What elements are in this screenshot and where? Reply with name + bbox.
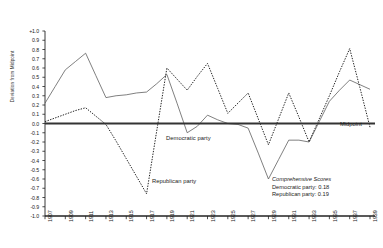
comprehensive-scores-annotation: Comprehensive Scores Democratic party: 0…	[272, 176, 331, 199]
y-tick-label: -0.7	[17, 185, 39, 191]
republican-series-label: Republican party	[152, 178, 196, 184]
y-tick-label: 0.9	[17, 37, 39, 43]
x-tick-label: 1907	[47, 210, 53, 222]
y-tick-label: 0.5	[17, 74, 39, 80]
y-tick-label: -0.1	[17, 130, 39, 136]
y-tick-label: -1.0	[17, 213, 39, 219]
series-line-democratic-party	[45, 53, 370, 179]
x-tick-label: 1913	[108, 210, 114, 222]
x-tick-label: 1939	[372, 210, 378, 222]
x-tick-label: 1915	[128, 210, 134, 222]
x-tick-label: 1921	[189, 210, 195, 222]
x-tick-label: 1925	[230, 210, 236, 222]
x-tick-label: 1931	[291, 210, 297, 222]
y-tick-label: -0.5	[17, 167, 39, 173]
y-tick-label: 0.3	[17, 93, 39, 99]
y-tick-label: -0.8	[17, 195, 39, 201]
y-tick-label: 0.2	[17, 102, 39, 108]
x-tick-label: 1923	[210, 210, 216, 222]
x-tick-label: 1937	[352, 210, 358, 222]
x-tick-label: 1929	[271, 210, 277, 222]
y-tick-label: -0.3	[17, 148, 39, 154]
midpoint-label: Midpoint	[340, 121, 362, 127]
y-tick-label: -0.9	[17, 204, 39, 210]
x-tick-label: 1911	[88, 211, 94, 222]
x-tick-label: 1933	[311, 210, 317, 222]
y-tick-label: 0.1	[17, 111, 39, 117]
y-tick-label: -0.2	[17, 139, 39, 145]
y-tick-label: +1.0	[17, 28, 39, 34]
x-tick-label: 1935	[332, 210, 338, 222]
x-tick-label: 1909	[68, 210, 74, 222]
series-group	[45, 49, 370, 194]
y-tick-label: 0.4	[17, 84, 39, 90]
y-tick-label: -0.6	[17, 176, 39, 182]
y-tick-label: 0.8	[17, 47, 39, 53]
scores-democratic: Democratic party: 0.18	[272, 184, 331, 192]
democratic-series-label: Democratic party	[166, 135, 211, 141]
deviation-from-midpoint-chart: Deviation from Midpoint +1.00.90.80.70.6…	[0, 0, 383, 248]
x-tick-label: 1919	[169, 210, 175, 222]
y-tick-label: -0.4	[17, 158, 39, 164]
scores-republican: Republican party: 0.19	[272, 191, 331, 199]
x-tick-label: 1927	[250, 210, 256, 222]
y-tick-label: 0.0	[17, 121, 39, 127]
x-tick-label: 1917	[149, 210, 155, 222]
scores-title: Comprehensive Scores	[272, 176, 331, 184]
y-tick-label: 0.7	[17, 56, 39, 62]
y-tick-label: 0.6	[17, 65, 39, 71]
